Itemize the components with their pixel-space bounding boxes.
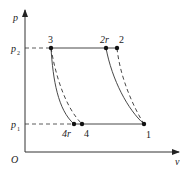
curve-1-2r (106, 48, 144, 124)
point-2-label: 2 (119, 34, 124, 45)
p2-subscript: 2 (17, 50, 20, 56)
point-1 (142, 122, 146, 126)
p2-label: p (10, 43, 16, 54)
point-3-label: 3 (48, 34, 53, 45)
point-4r-label: 4r (62, 128, 71, 139)
point-3 (49, 46, 53, 50)
point-2r (104, 46, 108, 50)
y-axis-label: p (12, 12, 18, 23)
point-4r (72, 122, 76, 126)
curve-3-4r (51, 48, 74, 124)
point-2r-label: 2r (100, 34, 109, 45)
origin-label: O (11, 154, 18, 165)
p1-subscript: 1 (17, 126, 20, 132)
point-4 (80, 122, 84, 126)
p1-label: p (10, 119, 16, 130)
curve-1-2 (117, 48, 144, 124)
point-1-label: 1 (146, 129, 151, 140)
point-2 (115, 46, 119, 50)
point-4-label: 4 (84, 128, 89, 139)
pv-diagram: p v O p 2 p 1 3 2r 2 4r 4 1 (0, 0, 191, 171)
x-axis-label: v (175, 156, 180, 167)
